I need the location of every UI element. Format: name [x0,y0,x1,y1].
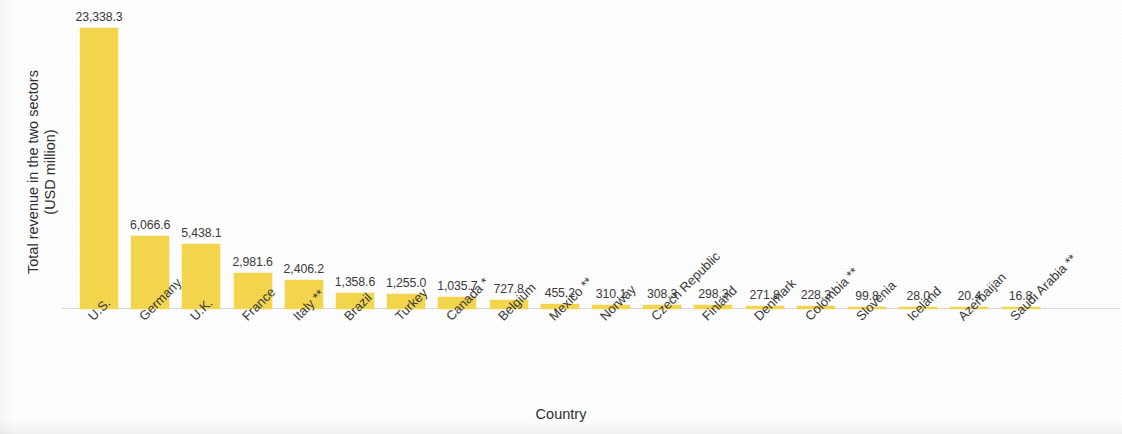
bar-group: 727.8 [483,0,534,310]
bar-group: 20.4 [944,0,995,310]
bar-group: 2,981.6 [227,0,278,310]
bar-value-label: 1,358.6 [335,275,375,289]
bar-group: 1,255.0 [381,0,432,310]
bar-group: 6,066.6 [125,0,176,310]
bar-group: 5,438.1 [176,0,227,310]
bar-group: 310.1 [585,0,636,310]
bar-group: 455.2 [534,0,585,310]
bar-chart: Total revenue in the two sectors (USD mi… [0,0,1122,434]
bar-group: 1,358.6 [329,0,380,310]
y-axis-title: Total revenue in the two sectors (USD mi… [25,42,59,302]
bar-group: 228.3 [790,0,841,310]
bar-value-label: 2,406.2 [284,262,324,276]
bar-group: 2,406.2 [278,0,329,310]
bar-value-label: 23,338.3 [75,10,122,24]
bar-group: 16.8 [995,0,1046,310]
bar-value-label: 5,438.1 [181,226,221,240]
bar-value-label: 2,981.6 [232,255,272,269]
plot-area: 23,338.36,066.65,438.12,981.62,406.21,35… [62,0,1120,310]
bar-group: 28.0 [893,0,944,310]
bar-group: 99.8 [841,0,892,310]
bar-group: 271.8 [739,0,790,310]
bar-group: 308.3 [637,0,688,310]
x-axis-title: Country [0,406,1122,422]
bar-value-label: 6,066.6 [130,218,170,232]
bar-group: 1,035.7 [432,0,483,310]
bar-group: 23,338.3 [73,0,124,310]
bar [80,28,118,309]
